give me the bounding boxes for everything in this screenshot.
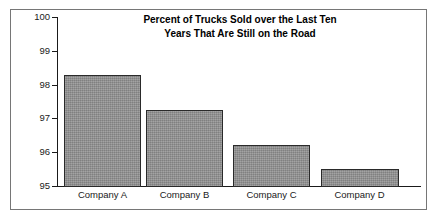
y-tick-label-95: 95 bbox=[24, 181, 50, 191]
y-tick-label-98: 98 bbox=[24, 80, 50, 90]
y-tick-mark-95 bbox=[52, 186, 58, 187]
x-tick-label-company-c: Company C bbox=[224, 189, 319, 201]
y-tick-row-99: 99 bbox=[20, 46, 50, 56]
y-axis-line bbox=[57, 17, 58, 187]
y-tick-row-95: 95 bbox=[20, 181, 50, 191]
x-tick-label-company-d: Company D bbox=[312, 189, 407, 201]
y-tick-row-96: 96 bbox=[20, 147, 50, 157]
x-tick-label-company-a: Company A bbox=[55, 189, 150, 201]
chart-title: Percent of Trucks Sold over the Last Ten… bbox=[70, 13, 410, 40]
y-tick-mark-99 bbox=[52, 51, 58, 52]
y-tick-label-99: 99 bbox=[24, 46, 50, 56]
y-tick-label-96: 96 bbox=[24, 147, 50, 157]
bar-company-c bbox=[233, 145, 310, 187]
y-tick-label-100: 100 bbox=[24, 12, 50, 22]
bar-company-b bbox=[146, 110, 223, 187]
chart-figure: Percent of Trucks Sold over the Last Ten… bbox=[0, 0, 446, 220]
chart-title-line-2: Years That Are Still on the Road bbox=[70, 27, 410, 41]
x-tick-label-company-b: Company B bbox=[137, 189, 232, 201]
y-tick-mark-96 bbox=[52, 152, 58, 153]
y-tick-mark-100 bbox=[52, 17, 58, 18]
bar-company-d bbox=[321, 169, 399, 187]
y-tick-row-97: 97 bbox=[20, 113, 50, 123]
y-tick-mark-97 bbox=[52, 118, 58, 119]
bar-company-a bbox=[64, 75, 141, 188]
plot-area: Percent of Trucks Sold over the Last Ten… bbox=[0, 0, 446, 220]
y-tick-row-98: 98 bbox=[20, 80, 50, 90]
y-tick-mark-98 bbox=[52, 85, 58, 86]
y-tick-label-97: 97 bbox=[24, 113, 50, 123]
y-tick-row-100: 100 bbox=[20, 12, 50, 22]
chart-title-line-1: Percent of Trucks Sold over the Last Ten bbox=[70, 13, 410, 27]
